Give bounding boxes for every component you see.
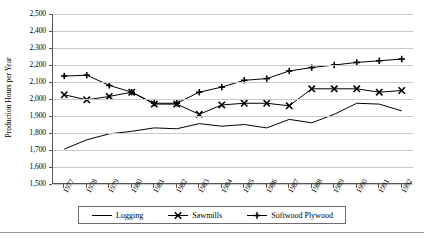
y-axis-tick-label: 2,400 [4,27,46,35]
y-axis-tick-label: 1,700 [4,146,46,154]
legend-label: Logging [116,211,143,220]
plus-marker-icon [196,89,202,95]
gridline [53,14,413,15]
gridline [53,150,413,151]
legend-item-sawmills[interactable]: Sawmills [167,211,222,220]
chart-container: Production Hours per Year 1,5001,6001,70… [0,0,424,238]
y-axis-tick-label: 2,100 [4,78,46,86]
legend-label: Sawmills [192,211,222,220]
gridline [53,48,413,49]
y-axis-tick-label: 1,500 [4,180,46,188]
gridline [53,65,413,66]
legend-label: Softwood Plywood [271,211,333,220]
plus-marker-icon [106,82,112,88]
y-axis-tick-label: 2,500 [4,10,46,18]
line-x-marker-key-icon [167,211,189,220]
y-axis-tick-label: 2,300 [4,44,46,52]
gridline [53,82,413,83]
plus-marker-icon [376,58,382,64]
y-axis-tick-label: 1,900 [4,112,46,120]
series-line [64,103,402,149]
gridline [53,116,413,117]
plus-marker-icon [286,68,292,74]
line-plus-marker-key-icon [246,211,268,220]
y-axis-tick-label: 1,600 [4,163,46,171]
series-logging [64,103,402,149]
legend-item-softwood-plywood[interactable]: Softwood Plywood [246,211,333,220]
plus-marker-icon [399,56,405,62]
y-axis-tick-label: 1,800 [4,129,46,137]
plus-marker-icon [84,72,90,78]
page-bottom-rule [0,232,424,233]
gridline [53,167,413,168]
plus-marker-icon [254,212,260,218]
legend-item-logging[interactable]: Logging [91,211,143,220]
line-key-icon [91,211,113,220]
plus-marker-icon [264,75,270,81]
gridline [53,133,413,134]
plot-area [52,14,412,184]
y-axis-tick-label: 2,200 [4,61,46,69]
y-axis-tick-label: 2,000 [4,95,46,103]
chart-legend: LoggingSawmillsSoftwood Plywood [78,206,346,224]
y-axis-tick-mark [49,184,52,185]
plus-marker-icon [219,84,225,90]
gridline [53,31,413,32]
plus-marker-icon [61,73,67,79]
gridline [53,99,413,100]
series-line [64,89,402,115]
series-sawmills [61,86,405,118]
